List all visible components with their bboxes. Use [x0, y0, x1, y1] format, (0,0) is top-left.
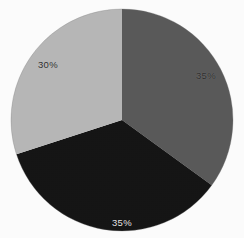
pie-chart-svg: [0, 0, 244, 238]
pie-label-black: 35%: [112, 217, 132, 228]
pie-label-light-gray: 30%: [38, 59, 58, 70]
pie-chart-figure: 30% 35% 35%: [0, 0, 244, 238]
pie-label-medium-gray: 35%: [196, 70, 216, 81]
